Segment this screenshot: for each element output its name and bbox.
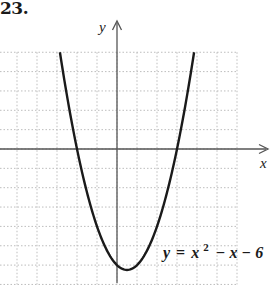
eq-lhs: y [161, 244, 171, 262]
eq-x: x [190, 244, 199, 261]
x-axis-label: x [259, 155, 267, 171]
eq-exponent: 2 [203, 241, 209, 253]
eq-equals: = [176, 244, 185, 261]
eq-rest: − x − 6 [216, 244, 263, 261]
y-axis-label: y [97, 19, 106, 35]
parabola-graph: x y y = x 2 − x − 6 [0, 0, 273, 287]
parabola-curve [60, 52, 194, 270]
equation-label: y = x 2 − x − 6 [161, 237, 263, 262]
